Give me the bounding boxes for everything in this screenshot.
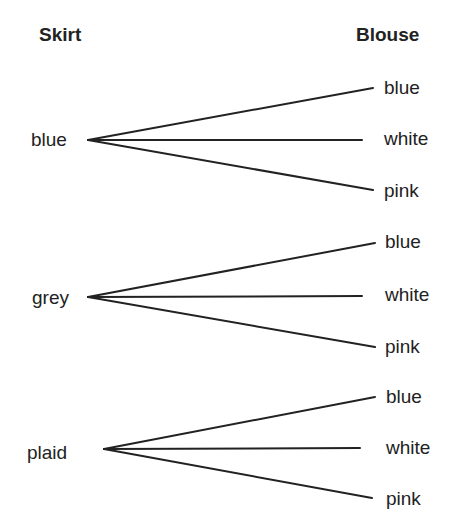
blouse-pink-3: pink [386,488,421,510]
blouse-blue-2: blue [385,231,421,253]
skirt-grey: grey [32,287,69,309]
blouse-blue-3: blue [386,386,422,408]
blouse-white-2: white [385,284,429,306]
blouse-pink-2: pink [385,336,420,358]
blouse-pink-1: pink [384,180,419,202]
blouse-blue-1: blue [384,77,420,99]
skirt-blue: blue [31,129,67,151]
blouse-white-1: white [384,128,428,150]
skirt-plaid: plaid [27,442,67,464]
blouse-white-3: white [386,437,430,459]
